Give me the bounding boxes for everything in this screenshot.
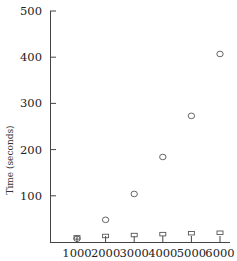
y-tick-label: 200: [20, 143, 42, 157]
x-tick-label: 5000: [177, 246, 206, 260]
y-tick-label: 400: [20, 50, 42, 64]
y-axis-title: Time (seconds): [5, 125, 15, 194]
square-marker: [217, 231, 223, 235]
x-tick-label: 3000: [120, 246, 149, 260]
circle-marker: [217, 51, 223, 57]
data-points: [74, 51, 223, 241]
y-tick-label: 300: [20, 96, 42, 110]
x-tick-label: 2000: [91, 246, 120, 260]
y-tick-label: 100: [20, 189, 42, 203]
scatter-chart: 100200300400500 100020003000400050006000…: [0, 0, 237, 261]
circle-marker: [160, 154, 166, 160]
square-marker: [188, 231, 194, 235]
x-ticks: 100020003000400050006000: [62, 236, 234, 260]
x-tick-label: 6000: [205, 246, 234, 260]
circle-marker: [102, 217, 108, 223]
circle-marker: [131, 191, 137, 197]
y-tick-label: 500: [20, 4, 42, 18]
x-tick-label: 4000: [148, 246, 177, 260]
square-marker: [160, 232, 166, 236]
circle-marker: [188, 113, 194, 119]
x-tick-label: 1000: [62, 246, 91, 260]
